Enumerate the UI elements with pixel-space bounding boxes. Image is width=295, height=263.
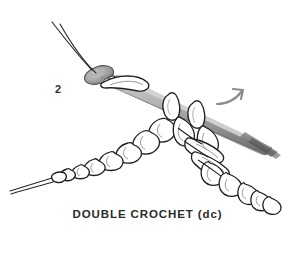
step-number: 2 <box>55 84 61 95</box>
crochet-illustration-figure: 2 DOUBLE CROCHET (dc) <box>0 0 295 263</box>
figure-caption: DOUBLE CROCHET (dc) <box>0 208 295 222</box>
crochet-illustration-artwork <box>0 0 295 263</box>
slip-knot <box>52 172 67 183</box>
